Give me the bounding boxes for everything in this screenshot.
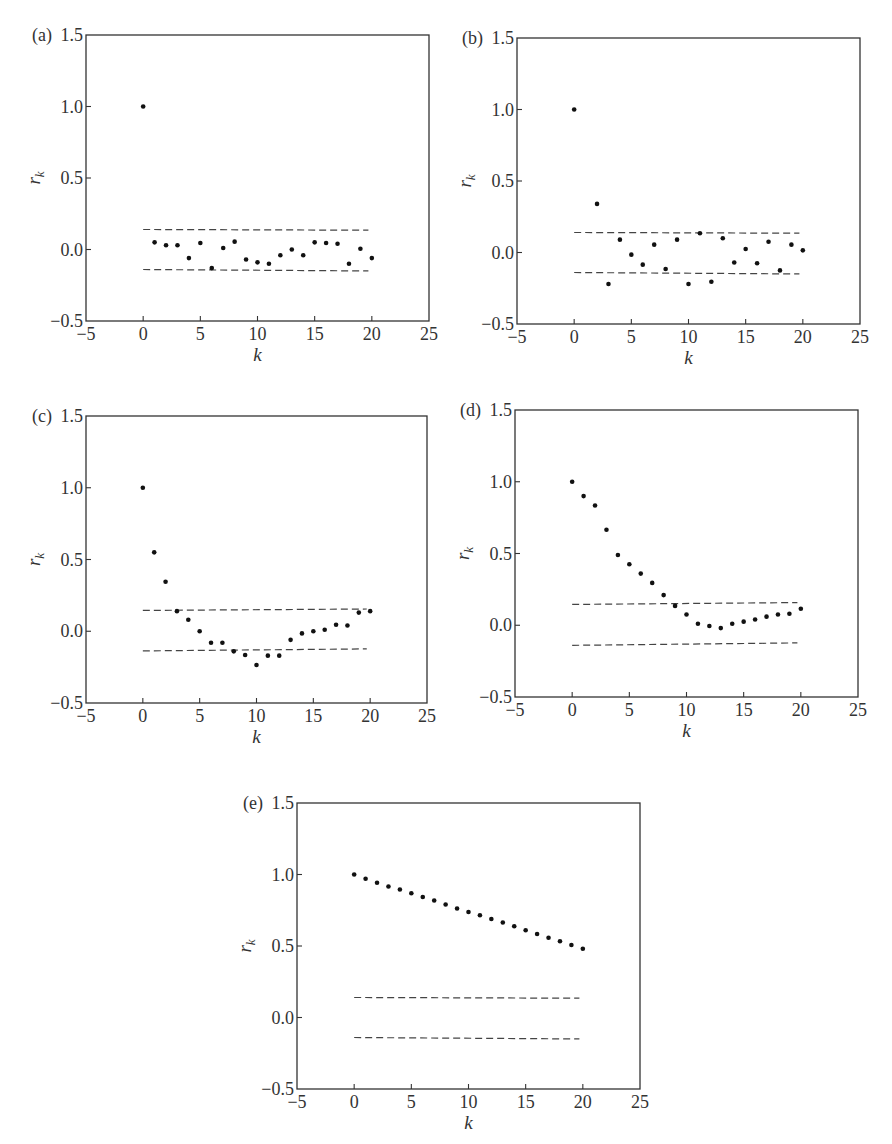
chart-e: −505101520251.51.00.50.0−0.5(e)krk [297,803,640,1089]
data-point [163,579,168,584]
data-point [277,653,282,658]
plot-frame [86,416,427,703]
y-tick-label: 0.5 [61,168,84,188]
data-point [512,924,517,929]
data-point [581,946,586,951]
svg-text:rk: rk [452,547,476,560]
data-point [358,246,363,251]
data-point [523,928,528,933]
data-point [398,887,403,892]
data-point [141,485,146,490]
chart-a: −505101520251.51.00.50.0−0.5(a)krk [86,35,429,321]
data-point [686,282,691,287]
data-point [409,891,414,896]
svg-text:rk: rk [454,174,478,187]
plot-frame [515,410,858,697]
y-axis-label: rk [234,939,258,952]
y-tick-label: 0.0 [272,1008,295,1028]
x-tick-label: 5 [196,324,205,344]
data-point [741,619,746,624]
data-point [186,617,191,622]
confidence-band-upper [572,603,797,605]
data-point [152,550,157,555]
data-point [604,528,609,533]
y-tick-label: 0.0 [61,621,84,641]
data-point [345,623,350,628]
y-tick-label: 0.5 [492,171,515,191]
y-tick-label: −0.5 [481,314,514,334]
panel-e: −505101520251.51.00.50.0−0.5(e)krk [297,803,640,1089]
x-tick-label: 20 [361,706,379,726]
data-point [640,262,645,267]
data-point [322,628,327,633]
x-tick-label: 20 [363,324,381,344]
data-point [164,243,169,248]
data-point [801,248,806,253]
panel-label: (d) [460,400,481,421]
confidence-band-upper [143,229,368,230]
data-point [661,593,666,598]
chart-b: −505101520251.51.00.50.0−0.5(b)krk [517,38,860,324]
y-tick-label: −0.5 [261,1079,294,1099]
data-point [698,231,703,236]
y-tick-label: 0.5 [61,550,84,570]
data-point [572,107,577,112]
chart-d: −505101520251.51.00.50.0−0.5(d)krk [515,410,858,697]
data-point [443,902,448,907]
x-tick-label: 0 [139,324,148,344]
data-point [730,622,735,627]
x-tick-label: 0 [570,327,579,347]
panel-a: −505101520251.51.00.50.0−0.5(a)krk [86,35,429,321]
x-tick-label: 20 [792,700,810,720]
data-point [652,242,657,247]
x-tick-label: 0 [350,1092,359,1112]
x-tick-label: 25 [849,700,867,720]
x-axis-label: k [253,344,262,365]
svg-text:rk: rk [23,171,47,184]
y-tick-label: 1.0 [61,478,84,498]
x-axis-label: k [464,1112,473,1133]
data-point [535,932,540,937]
data-point [721,236,726,241]
y-tick-label: 1.5 [61,406,84,426]
x-axis-label: k [682,720,691,741]
panel-c: −505101520251.51.00.50.0−0.5(c)krk [86,416,427,703]
x-tick-label: 25 [631,1092,649,1112]
y-axis-label: rk [452,547,476,560]
y-tick-label: 1.0 [61,97,84,117]
data-point [569,943,574,948]
data-point [420,895,425,900]
data-point [347,262,352,267]
data-point [593,503,598,508]
x-tick-label: 5 [195,706,204,726]
y-tick-label: 0.0 [492,243,515,263]
data-point [789,242,794,247]
data-point [370,256,375,261]
y-tick-label: 0.0 [490,615,513,635]
x-tick-label: 15 [735,700,753,720]
data-point [267,262,272,267]
data-point [187,256,192,261]
data-point [787,611,792,616]
y-tick-label: 1.5 [272,793,295,813]
y-tick-label: 1.0 [272,865,295,885]
data-point [570,479,575,484]
y-axis-label: rk [23,553,47,566]
data-point [650,581,655,586]
chart-c: −505101520251.51.00.50.0−0.5(c)krk [86,416,427,703]
x-tick-label: 20 [574,1092,592,1112]
data-point [764,614,769,619]
x-tick-label: 15 [737,327,755,347]
data-point [301,253,306,258]
data-point [209,640,214,645]
plot-frame [297,803,640,1089]
data-point [595,202,600,207]
confidence-band-lower [143,270,368,271]
data-point [386,884,391,889]
confidence-band-upper [574,232,799,233]
confidence-band-lower [143,649,367,651]
x-tick-label: 15 [306,324,324,344]
data-point [312,240,317,245]
data-point [352,872,357,877]
data-point [675,237,680,242]
